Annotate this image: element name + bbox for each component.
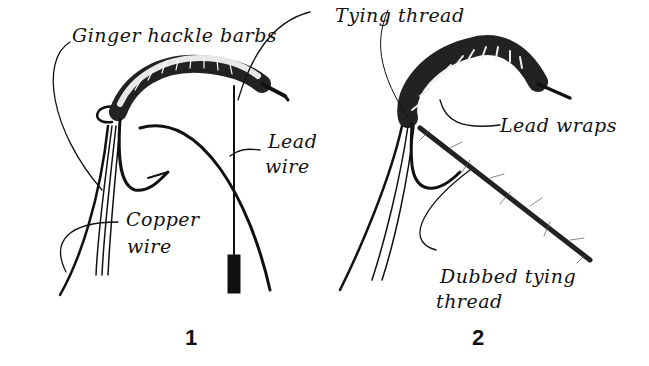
label-copper-wire-line1: Copper: [126, 208, 200, 230]
illustration-canvas: [0, 0, 649, 366]
figure-1-hook: [60, 58, 288, 295]
figure-2-hook: [340, 45, 590, 290]
label-tying-thread: Tying thread: [335, 4, 465, 26]
figure-number-2: 2: [472, 325, 484, 351]
label-lead-wraps: Lead wraps: [500, 114, 617, 136]
label-copper-wire-line2: wire: [127, 235, 172, 257]
label-dubbed-line2: thread: [436, 290, 503, 312]
label-ginger-hackle-barbs: Ginger hackle barbs: [72, 24, 277, 46]
label-lead-wire-line2: wire: [265, 155, 310, 177]
label-dubbed-line1: Dubbed tying: [440, 265, 576, 287]
label-lead-wire-line1: Lead: [268, 130, 317, 152]
figure-number-1: 1: [185, 325, 197, 351]
